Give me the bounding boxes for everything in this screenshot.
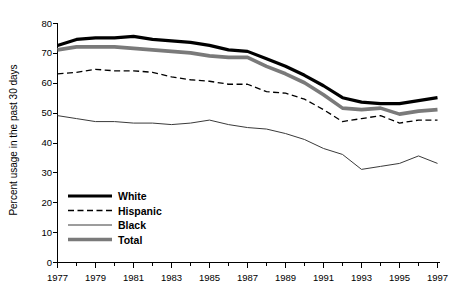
x-tick-label: 1993 [351,272,372,283]
x-axis-tick-marks [58,263,438,269]
y-axis-title: Percent usage in the past 30 days [8,64,19,215]
x-tick-label: 1995 [389,272,410,283]
x-tick-label: 1979 [85,272,106,283]
line-chart: Percent usage in the past 30 days 010203… [0,0,464,304]
y-tick-label: 10 [41,227,52,238]
x-tick-label: 1985 [199,272,220,283]
x-tick-label: 1991 [313,272,334,283]
chart-legend: WhiteHispanicBlackTotal [68,190,162,246]
x-tick-label: 1989 [275,272,296,283]
y-tick-label: 50 [41,107,52,118]
x-axis-tick-labels: 1977197919811983198519871989199119931995… [47,272,448,283]
y-tick-label: 70 [41,47,52,58]
legend-label-total: Total [118,234,142,246]
y-tick-label: 30 [41,167,52,178]
chart-container: Percent usage in the past 30 days 010203… [0,0,464,304]
y-tick-label: 20 [41,197,52,208]
x-tick-label: 1977 [47,272,68,283]
y-tick-label: 40 [41,137,52,148]
series-line-black [58,116,438,170]
y-tick-label: 60 [41,77,52,88]
y-axis-tick-marks [53,24,58,263]
y-tick-label: 0 [47,257,52,268]
x-tick-label: 1997 [427,272,448,283]
x-tick-label: 1987 [237,272,258,283]
legend-label-hispanic: Hispanic [118,205,162,217]
legend-label-white: White [118,190,147,202]
x-tick-label: 1981 [123,272,144,283]
y-tick-label: 80 [41,18,52,29]
data-series-group [58,36,438,169]
x-tick-label: 1983 [161,272,182,283]
y-axis-tick-labels: 01020304050607080 [41,18,52,268]
series-line-hispanic [58,69,438,123]
legend-label-black: Black [118,219,146,231]
